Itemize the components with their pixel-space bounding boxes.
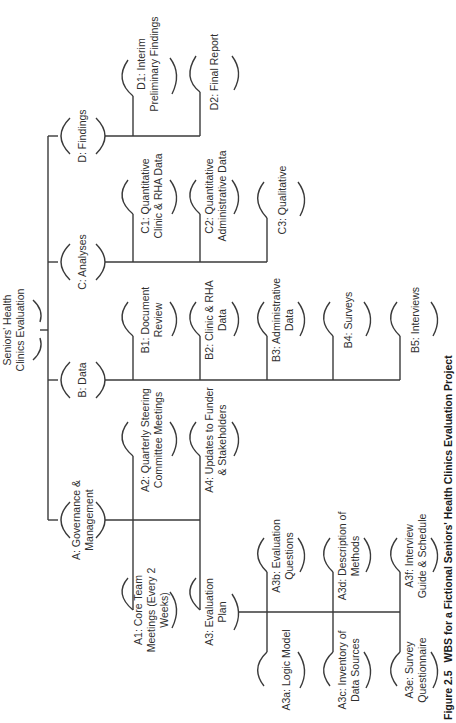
node-label-line: B: Data: [76, 362, 88, 397]
node-label-line: Plan: [216, 601, 228, 622]
node-label-line: D1: Interim: [135, 38, 147, 90]
node-label-line: B2: Clinic & RHA: [203, 280, 215, 359]
node-label-line: Questions: [283, 532, 295, 579]
node-label-line: Committee Meetings: [152, 392, 164, 488]
wbs-diagram-portrait: Seniors' Health Clinics Evaluation D: Fi…: [0, 0, 456, 723]
node-label-line: A1: Core Team: [132, 575, 144, 645]
node-label-line: B3: Administrative: [270, 278, 282, 362]
node-label-line: Data: [216, 309, 228, 331]
node-label-line: Clinics Evaluation: [14, 288, 26, 371]
node-label-line: D2: Final Report: [208, 34, 220, 111]
node-label-line: C2: Quantitative: [203, 158, 215, 233]
node-label-line: C1: Quantitative: [139, 158, 151, 233]
node-label-line: A3b: Evaluation: [270, 519, 282, 593]
node-label-line: Preliminary Findings: [148, 16, 160, 111]
node-label-line: A: Governance &: [70, 480, 82, 560]
background: [0, 0, 456, 723]
node-label-line: Questionnaire: [416, 637, 428, 703]
node-label-line: B1: Document: [139, 287, 151, 354]
caption-title: WBS for a Fictional Seniors' Health Clin…: [442, 355, 454, 663]
node-label-line: A3e: Survey: [403, 641, 415, 699]
node-label-line: Meetings (Every 2: [145, 568, 157, 653]
caption-figure-number: Figure 2.5: [442, 670, 454, 720]
node-label-line: A3a: Logic Model: [280, 629, 292, 710]
node-label-line: A4: Updates to Funder: [203, 387, 215, 493]
node-label-line: A3f: Interview: [403, 524, 415, 588]
node-label-line: Guide & Schedule: [416, 514, 428, 599]
node-label-line: C: Analyses: [76, 234, 88, 289]
node-label-line: Clinic & RHA Data: [152, 153, 164, 238]
node-label-line: Weeks): [158, 592, 170, 627]
node-label-line: A2: Quarterly Steering: [139, 388, 151, 492]
node-label-line: Methods: [349, 536, 361, 576]
node-label-line: A3d: Description of: [336, 512, 348, 601]
node-label-line: C3: Qualitative: [276, 165, 288, 234]
node-label-line: D: Findings: [76, 109, 88, 162]
node-label-line: A3: Evaluation: [203, 578, 215, 646]
node-label-line: Administrative Data: [216, 150, 228, 241]
node-label-line: B4: Surveys: [342, 292, 354, 349]
node-label-line: Review: [152, 302, 164, 337]
node-label-line: A3c: Inventory of: [336, 631, 348, 710]
node-label-line: Management: [83, 489, 95, 550]
node-label-line: Data: [283, 309, 295, 331]
node-label-line: Seniors' Health: [1, 294, 13, 365]
node-label-line: & Stakeholders: [216, 404, 228, 475]
node-label-line: Data Sources: [349, 638, 361, 702]
node-label-line: B5: Interviews: [409, 287, 421, 353]
